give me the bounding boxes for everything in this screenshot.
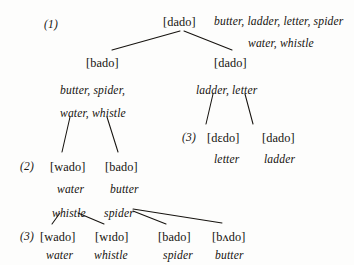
tree-edge-root-to-n-bado xyxy=(112,31,180,50)
gloss-bado-line-1: butter, spider, xyxy=(60,85,125,97)
tree-node-dado-2: [dado] xyxy=(262,132,295,144)
tree-edge-g-bado-2-to-n-wado xyxy=(62,117,70,152)
gloss-root-line-1: butter, ladder, letter, spider xyxy=(214,16,343,28)
tree-edge-g-spider-to-n-bado3 xyxy=(133,211,166,224)
gloss-dedo: letter xyxy=(214,154,239,166)
tree-edge-root-to-n-dado xyxy=(184,31,232,50)
gloss-bado-3: spider xyxy=(163,250,193,262)
tree-edge-g-dado-1-to-n-dedo xyxy=(206,94,213,124)
stage-marker-3-right: (3) xyxy=(182,132,196,144)
gloss-dado-2: ladder xyxy=(264,154,295,166)
tree-node-dado: [dado] xyxy=(214,57,247,69)
stage-marker-2: (2) xyxy=(20,161,34,173)
figure-canvas: (1) (2) (3) (3) [dado] [bado] [dado] [dɛ… xyxy=(0,0,354,265)
tree-edge-g-spider-to-n-bvdo xyxy=(133,209,222,223)
tree-node-root-dado: [dado] xyxy=(163,16,196,28)
stage-marker-1: (1) xyxy=(44,19,58,31)
gloss-spider: spider xyxy=(104,208,134,220)
tree-node-bado-3: [bado] xyxy=(158,231,191,243)
gloss-bvdo: butter xyxy=(215,250,244,262)
gloss-bado-2: butter xyxy=(110,184,139,196)
gloss-wado-3: water xyxy=(46,250,73,262)
tree-node-wido: [wɪdo] xyxy=(95,231,128,243)
tree-edge-g-bado-2-to-n-bado2 xyxy=(107,117,118,152)
tree-node-bado-2: [bado] xyxy=(105,161,138,173)
tree-edge-g-dado-1-to-n-dado2 xyxy=(245,94,253,124)
tree-node-bvdo: [bʌdo] xyxy=(212,231,245,243)
gloss-bado-line-2: water, whistle xyxy=(60,108,126,120)
gloss-dado-line-1: ladder, letter xyxy=(196,85,257,97)
tree-node-wado: [wado] xyxy=(50,161,85,173)
tree-node-bado: [bado] xyxy=(86,57,119,69)
gloss-wido: whistle xyxy=(94,250,128,262)
tree-node-wado-3: [wado] xyxy=(40,231,75,243)
gloss-root-line-2: water, whistle xyxy=(248,38,314,50)
gloss-wado: water xyxy=(57,184,84,196)
gloss-whistle: whistle xyxy=(52,208,86,220)
stage-marker-3-bottom: (3) xyxy=(20,231,34,243)
tree-node-dedo: [dɛdo] xyxy=(207,132,239,144)
